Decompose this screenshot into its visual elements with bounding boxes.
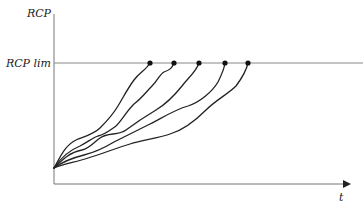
endpoint-4 [222,60,227,65]
endpoint-5 [245,60,250,65]
trajectory-2 [54,63,174,168]
endpoint-3 [196,60,201,65]
endpoint-1 [147,60,152,65]
y-axis-label: RCP [27,7,51,20]
diagram-canvas [0,0,363,205]
x-axis-label: t [339,191,343,204]
trajectory-3 [54,63,199,168]
rcp-diagram: RCP RCP lim t [0,0,363,205]
x-axis-arrow-icon [343,180,351,188]
endpoint-2 [171,60,176,65]
rcp-limit-label: RCP lim [6,57,51,70]
